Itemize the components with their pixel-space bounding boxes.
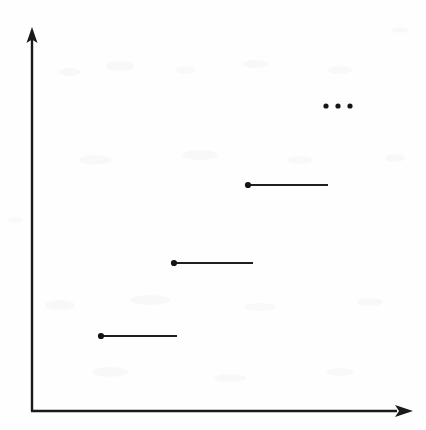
step-segment-3-left-endpoint-dot [245, 182, 251, 188]
ellipsis-dot-1 [323, 103, 328, 108]
ellipsis-dot-2 [335, 103, 340, 108]
step-segment-1-left-endpoint-dot [98, 333, 104, 339]
step-function-figure [0, 0, 426, 430]
plot-canvas [0, 0, 426, 430]
paper-background [0, 0, 426, 430]
ellipsis-dot-3 [347, 103, 352, 108]
step-segment-2-left-endpoint-dot [171, 260, 177, 266]
continuation-ellipsis [323, 103, 352, 108]
